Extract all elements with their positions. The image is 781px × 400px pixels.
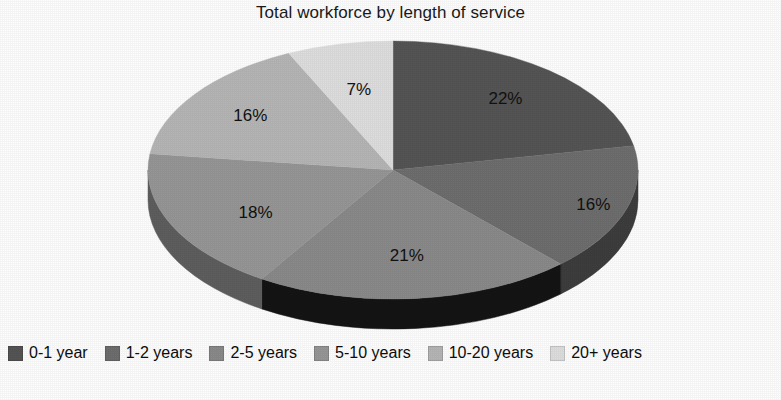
legend-swatch-icon (8, 346, 23, 361)
legend-item-3[interactable]: 5-10 years (314, 345, 411, 361)
legend-item-label: 0-1 year (29, 345, 88, 361)
legend-item-label: 10-20 years (449, 345, 534, 361)
slice-value-label-5: 7% (347, 80, 372, 99)
legend-swatch-icon (428, 346, 443, 361)
legend-item-1[interactable]: 1-2 years (105, 345, 193, 361)
legend-item-2[interactable]: 2-5 years (209, 345, 297, 361)
legend-swatch-icon (314, 346, 329, 361)
legend-swatch-icon (105, 346, 120, 361)
legend-item-4[interactable]: 10-20 years (428, 345, 534, 361)
legend-item-0[interactable]: 0-1 year (8, 345, 88, 361)
pie-svg: 22%16%21%18%16%7% (120, 28, 665, 338)
slice-value-label-2: 21% (390, 246, 424, 265)
legend-item-label: 20+ years (571, 345, 642, 361)
chart-title: Total workforce by length of service (0, 3, 781, 23)
slice-value-label-4: 16% (233, 106, 267, 125)
chart-legend: 0-1 year1-2 years2-5 years5-10 years10-2… (0, 338, 781, 368)
slice-value-label-1: 16% (576, 195, 610, 214)
pie-plot-area: 22%16%21%18%16%7% (120, 28, 665, 338)
legend-item-label: 2-5 years (230, 345, 297, 361)
legend-item-5[interactable]: 20+ years (550, 345, 642, 361)
pie-chart-figure: Total workforce by length of service 22%… (0, 0, 781, 400)
slice-value-label-3: 18% (239, 203, 273, 222)
legend-swatch-icon (550, 346, 565, 361)
legend-item-label: 1-2 years (126, 345, 193, 361)
slice-value-label-0: 22% (488, 89, 522, 108)
legend-item-label: 5-10 years (335, 345, 411, 361)
legend-swatch-icon (209, 346, 224, 361)
